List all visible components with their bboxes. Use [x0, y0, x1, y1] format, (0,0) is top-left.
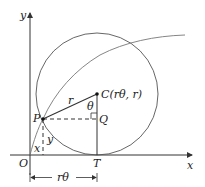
y-axis-label: y	[20, 10, 26, 21]
origin-label: O	[19, 158, 28, 169]
distance-label: rθ	[57, 172, 69, 183]
radius-label: r	[68, 95, 73, 106]
right-angle-marker	[91, 113, 97, 119]
point-p-label: P	[33, 113, 40, 124]
point-t-label: T	[93, 158, 100, 169]
angle-label: θ	[87, 101, 94, 112]
point-c-label: C(rθ, r)	[101, 89, 142, 100]
point-c	[95, 92, 99, 96]
cycloid-diagram: y x O P C(rθ, r) Q T r θ x y rθ	[0, 0, 205, 187]
x-length-label: x	[34, 143, 40, 154]
point-p	[41, 117, 45, 121]
y-length-label: y	[47, 134, 53, 145]
point-q-label: Q	[99, 114, 108, 125]
x-axis-label: x	[187, 160, 193, 171]
